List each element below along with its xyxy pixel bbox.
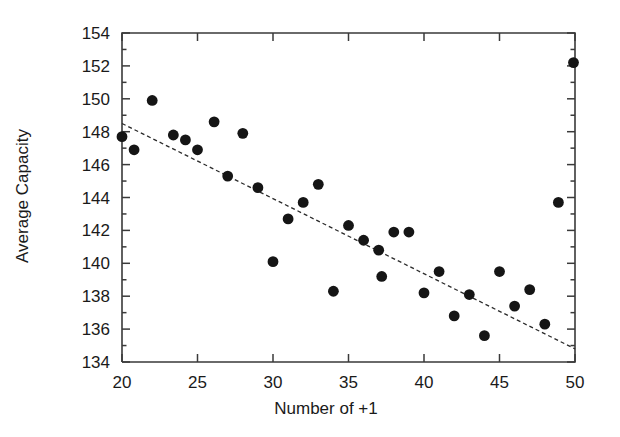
data-point (509, 301, 520, 312)
y-axis-tick-labels: 134136138140142144146148150152154 (82, 24, 110, 372)
data-point (298, 197, 309, 208)
x-axis-tick-labels: 20253035404550 (113, 373, 585, 392)
data-point (388, 227, 399, 238)
data-point (376, 271, 387, 282)
y-axis-title: Average Capacity (13, 129, 32, 263)
data-point (343, 220, 354, 231)
data-point (253, 182, 264, 193)
data-point (479, 330, 490, 341)
data-point (222, 171, 233, 182)
data-point (464, 289, 475, 300)
data-point (553, 197, 564, 208)
x-tick-label-35: 35 (339, 373, 358, 392)
data-point (539, 319, 550, 330)
x-axis-ticks (122, 33, 575, 362)
data-point (192, 144, 203, 155)
data-point (568, 57, 579, 68)
regression-trend-line (122, 123, 575, 348)
data-point (313, 179, 324, 190)
plot-frame (122, 33, 575, 362)
data-point (404, 227, 415, 238)
x-tick-label-25: 25 (188, 373, 207, 392)
x-tick-label-30: 30 (264, 373, 283, 392)
chart-page: 134136138140142144146148150152154 202530… (0, 0, 620, 437)
x-tick-label-40: 40 (415, 373, 434, 392)
scatter-plot: 134136138140142144146148150152154 202530… (0, 0, 620, 437)
data-point (283, 213, 294, 224)
data-point (180, 135, 191, 146)
y-tick-label-152: 152 (82, 57, 110, 76)
data-point (209, 116, 220, 127)
axis-frame (122, 33, 575, 362)
data-point (147, 95, 158, 106)
y-tick-label-150: 150 (82, 90, 110, 109)
x-axis-title: Number of +1 (274, 399, 377, 418)
data-point (129, 144, 140, 155)
data-point (358, 235, 369, 246)
x-tick-label-20: 20 (113, 373, 132, 392)
y-tick-label-148: 148 (82, 123, 110, 142)
y-tick-label-136: 136 (82, 320, 110, 339)
data-point (524, 284, 535, 295)
y-tick-label-138: 138 (82, 287, 110, 306)
x-tick-label-45: 45 (490, 373, 509, 392)
trend-line-group (122, 123, 575, 348)
data-point (117, 131, 128, 142)
data-point (494, 266, 505, 277)
y-tick-label-134: 134 (82, 353, 110, 372)
data-point (449, 311, 460, 322)
y-axis-ticks (122, 33, 575, 362)
y-tick-label-142: 142 (82, 221, 110, 240)
data-point (237, 128, 248, 139)
x-tick-label-50: 50 (566, 373, 585, 392)
y-tick-label-140: 140 (82, 254, 110, 273)
data-point (373, 245, 384, 256)
data-point (268, 256, 279, 267)
data-point (168, 130, 179, 141)
data-point (419, 288, 430, 299)
y-tick-label-146: 146 (82, 156, 110, 175)
y-tick-label-154: 154 (82, 24, 110, 43)
data-point (434, 266, 445, 277)
data-points (117, 57, 579, 341)
y-tick-label-144: 144 (82, 189, 110, 208)
data-point (328, 286, 339, 297)
